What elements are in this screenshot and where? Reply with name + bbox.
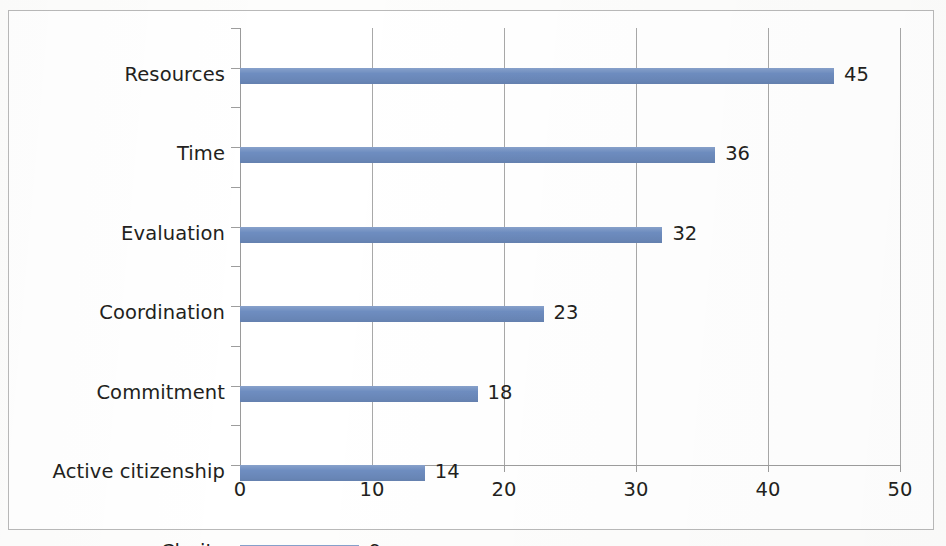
x-axis-tick-label: 10: [342, 478, 402, 501]
bar-row: Coordination23: [0, 147, 946, 187]
bar-row: Active citizenship14: [0, 227, 946, 267]
bar-row: Other5: [0, 306, 946, 346]
bar-row: Time36: [0, 68, 946, 108]
bar-row: Resources45: [0, 28, 946, 68]
x-axis-tick-label: 30: [606, 478, 666, 501]
bar-row: Objectivity0: [0, 386, 946, 426]
x-axis-tick-label: 40: [738, 478, 798, 501]
bar-row: Accountability5: [0, 346, 946, 386]
y-axis-tick: [231, 465, 240, 466]
bar-row: Commitment18: [0, 187, 946, 227]
bar-value-label: 9: [369, 540, 381, 546]
x-axis-tick: [900, 465, 901, 472]
x-axis-tick-label: 20: [474, 478, 534, 501]
bar-row: Clarity9: [0, 266, 946, 306]
x-axis-tick: [768, 465, 769, 472]
x-axis-tick-label: 50: [870, 478, 930, 501]
x-axis-tick: [504, 465, 505, 472]
bar-row: Rights0: [0, 425, 946, 465]
bar-row: Evaluation32: [0, 107, 946, 147]
category-label: Clarity: [0, 540, 225, 546]
chart-figure: 01020304050 Resources45Time36Evaluation3…: [0, 0, 946, 546]
bar: [240, 465, 425, 481]
x-axis-tick: [636, 465, 637, 472]
